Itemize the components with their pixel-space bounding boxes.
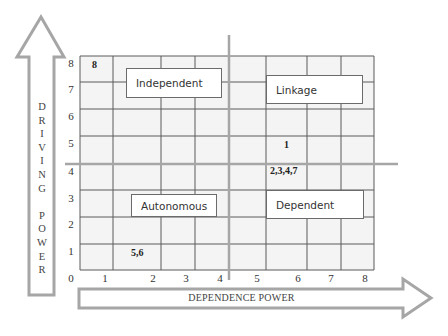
y-tick-8: 8 <box>65 58 77 69</box>
y-tick-2: 2 <box>65 219 77 230</box>
x-axis-title: DEPENDENCE POWER <box>80 292 403 303</box>
point-label-2-3-4-7: 2,3,4,7 <box>270 166 298 176</box>
y-axis-title: D R I V I N G P O W E R <box>29 100 55 277</box>
x-tick-5: 5 <box>250 273 264 284</box>
x-tick-6: 6 <box>291 273 305 284</box>
y-tick-5: 5 <box>65 138 77 149</box>
point-label-5-6: 5,6 <box>131 248 144 258</box>
x-tick-2: 2 <box>146 273 160 284</box>
y-tick-4: 4 <box>65 166 77 177</box>
point-label-8: 8 <box>92 60 97 70</box>
origin-label: 0 <box>65 273 77 284</box>
y-tick-1: 1 <box>65 246 77 257</box>
x-tick-8: 8 <box>358 273 372 284</box>
quadrant-label-dependent: Dependent <box>266 190 364 219</box>
quadrant-label-linkage: Linkage <box>266 75 363 104</box>
y-tick-3: 3 <box>65 193 77 204</box>
quadrant-label-autonomous: Autonomous <box>131 194 217 217</box>
x-tick-1: 1 <box>98 273 112 284</box>
quadrant-label-independent: Independent <box>126 68 222 98</box>
y-tick-6: 6 <box>65 111 77 122</box>
point-label-1: 1 <box>284 140 289 150</box>
x-tick-3: 3 <box>179 273 193 284</box>
x-tick-4: 4 <box>213 273 227 284</box>
y-tick-7: 7 <box>65 84 77 95</box>
x-tick-7: 7 <box>324 273 338 284</box>
